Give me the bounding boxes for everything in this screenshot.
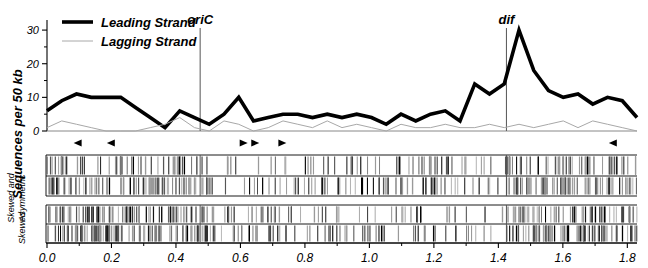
x-tick-label: 0.2: [103, 251, 120, 265]
y-tick-label: 10: [27, 91, 40, 103]
panel-skewed-and-asymmetric: [46, 155, 637, 196]
y-tick-label: 30: [27, 24, 40, 36]
panels-group: [46, 155, 637, 243]
x-axis-labels-group: 0.00.20.40.60.81.01.21.41.61.8: [39, 251, 636, 265]
x-tick-label: 0.8: [297, 251, 314, 265]
panel-label-skewed: Skewed: [17, 211, 27, 244]
arrow-marker-left: [609, 140, 617, 147]
marker-label-dif: dif: [498, 12, 516, 27]
x-tick-label: 1.6: [555, 251, 572, 265]
arrow-marker-right: [240, 140, 248, 147]
x-tick-label: 1.8: [619, 251, 636, 265]
x-tick-label: 0.0: [39, 251, 56, 265]
x-tick-label: 1.4: [490, 251, 507, 265]
x-tick-label: 1.2: [426, 251, 443, 265]
y-tick-label: 20: [26, 58, 40, 70]
y-axis-labels-group: 0102030: [26, 24, 40, 137]
legend-label-0: Leading Strand: [101, 15, 197, 30]
legend-group: Leading StrandLagging Strand: [62, 15, 197, 49]
arrow-marker-right: [278, 140, 286, 147]
arrow-marker-right: [251, 140, 259, 147]
arrow-marker-left: [107, 140, 115, 147]
series-line-lagging-strand: [47, 118, 637, 131]
y-tick-label: 0: [33, 125, 40, 137]
x-tick-label: 0.6: [232, 251, 249, 265]
panel-label-skewed-and-asymmetric-line1: Skewed and: [6, 172, 16, 223]
legend-label-1: Lagging Strand: [101, 34, 197, 49]
genomic-sequence-distribution-figure: Sequences per 50 kb Skewed and Asymmetri…: [0, 0, 648, 268]
arrow-marker-left: [74, 140, 82, 147]
axes-group: [42, 20, 637, 248]
figure-svg: Sequences per 50 kb Skewed and Asymmetri…: [0, 0, 648, 268]
x-tick-label: 1.0: [361, 251, 378, 265]
arrow-markers-group: [74, 140, 617, 147]
panel-skewed: [46, 205, 637, 243]
x-tick-label: 0.4: [168, 251, 185, 265]
